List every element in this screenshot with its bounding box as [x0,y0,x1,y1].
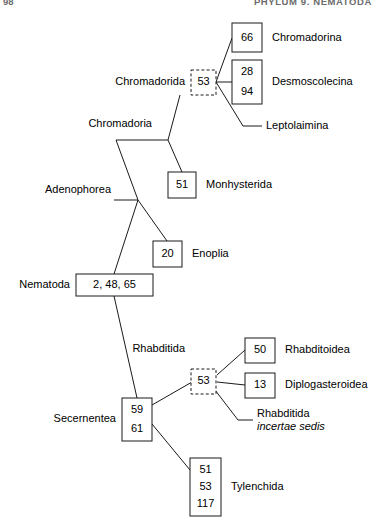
figure-page: 98 PHYLUM 9. NEMATODA [0,0,377,531]
cladogram: 66 Chromadorina 28 94 Desmoscolecina Lep… [0,0,377,531]
node-rhabditida-incertae-sedis: Rhabditida incertae sedis [257,407,325,432]
node-monhysterida: 51 Monhysterida [168,172,273,198]
node-adenophorea: Adenophorea [45,183,112,195]
node-desmoscolecina: 28 94 Desmoscolecina [232,60,354,104]
chromadorida-value: 53 [197,75,209,87]
adenophorea-label: Adenophorea [45,183,112,195]
monhysterida-label: Monhysterida [206,178,273,190]
nematoda-value: 2, 48, 65 [93,278,136,290]
diplogasteroidea-value: 13 [254,378,266,390]
branch-adenophorea-chromadoria [116,140,138,200]
desmoscolecina-value-2: 94 [241,85,253,97]
rhabditida-incertae-label-1: Rhabditida [257,407,310,419]
monhysterida-value: 51 [176,178,188,190]
desmoscolecina-value-1: 28 [241,65,253,77]
rhabditida-value: 53 [197,374,209,386]
chromadorina-value: 66 [241,31,253,43]
tylenchida-value-3: 117 [197,497,215,509]
node-rhabditida: 53 Rhabditida [132,342,216,394]
chromadorina-label: Chromadorina [272,31,343,43]
branch-secernentea-tylenchida [152,424,190,470]
branch-rhabditida-rhabditoidea [217,350,245,375]
secernentea-value-1: 59 [131,403,143,415]
node-chromadorida: 53 Chromadorida [115,70,216,95]
nematoda-label: Nematoda [19,278,71,290]
tylenchida-value-2: 53 [199,480,211,492]
enoplia-label: Enoplia [192,247,230,259]
branch-chromadorida-chromadorina [216,38,232,82]
branch-nematoda-adenophorea [114,200,138,274]
node-leptolaimina: Leptolaimina [266,119,329,131]
diplogasteroidea-label: Diplogasteroidea [285,378,368,390]
node-nematoda: 2, 48, 65 Nematoda [19,274,153,296]
desmoscolecina-label: Desmoscolecina [272,75,354,87]
chromadorida-label: Chromadorida [115,75,186,87]
rhabditida-incertae-label-2: incertae sedis [257,420,325,432]
node-secernentea: 59 61 Secernentea [54,398,152,441]
tylenchida-value-1: 51 [199,463,211,475]
branch-rhabditida-diplogasteroidea [217,382,245,385]
rhabditoidea-label: Rhabditoidea [285,343,351,355]
rhabditoidea-value: 50 [254,343,266,355]
node-tylenchida: 51 53 117 Tylenchida [190,458,284,516]
enoplia-value: 20 [161,247,173,259]
leptolaimina-label: Leptolaimina [266,119,329,131]
node-diplogasteroidea: 13 Diplogasteroidea [245,373,368,398]
node-rhabditoidea: 50 Rhabditoidea [245,338,351,363]
branch-secernentea-rhabditida [152,382,192,405]
secernentea-value-2: 61 [131,422,143,434]
node-chromadoria: Chromadoria [88,117,152,129]
tylenchida-label: Tylenchida [231,480,284,492]
node-enoplia: 20 Enoplia [153,241,230,267]
rhabditida-label: Rhabditida [132,342,185,354]
branch-chromadoria-chromadorida [168,95,180,140]
branch-chromadoria-monhysterida [168,140,182,172]
secernentea-label: Secernentea [54,412,117,424]
branch-adenophorea-enoplia [138,200,167,241]
chromadoria-label: Chromadoria [88,117,152,129]
node-chromadorina: 66 Chromadorina [232,23,343,52]
